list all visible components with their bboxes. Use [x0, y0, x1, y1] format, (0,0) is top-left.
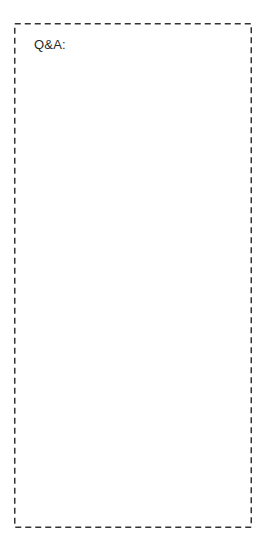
- clipped-header-text: [64, 0, 204, 4]
- qa-answer-area: [34, 59, 240, 516]
- qa-label: Q&A:: [34, 37, 66, 53]
- qa-box: Q&A:: [14, 23, 252, 528]
